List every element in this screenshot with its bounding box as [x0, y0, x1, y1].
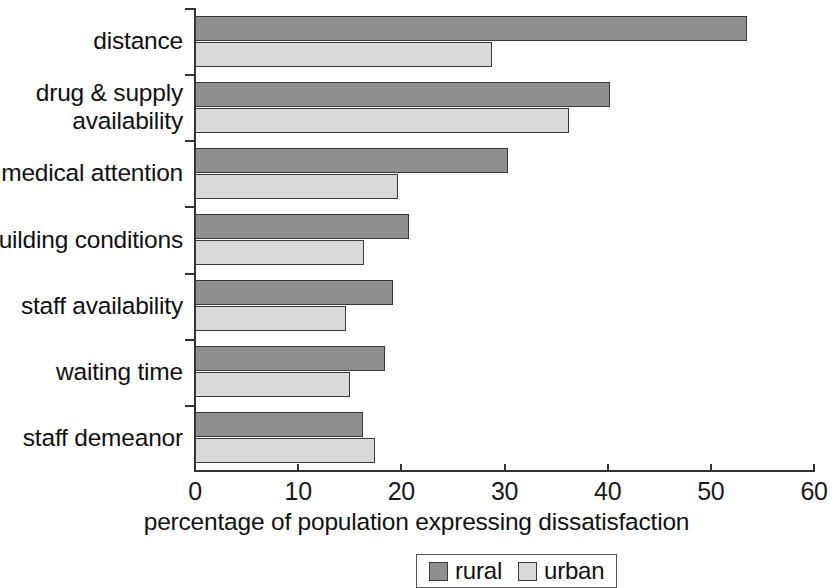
bar-urban-0: [195, 42, 492, 67]
x-axis-tick-label-0: 0: [165, 476, 225, 506]
category-label-3: building conditions: [0, 226, 183, 254]
x-axis-tick-0: [194, 464, 196, 472]
y-axis-tick-3: [185, 206, 195, 208]
y-axis-tick-4: [185, 273, 195, 275]
chart-legend: rural urban: [416, 554, 617, 588]
legend-item-rural[interactable]: rural: [429, 558, 502, 584]
y-axis-tick-6: [185, 405, 195, 407]
category-label-4: staff availability: [0, 292, 183, 320]
x-axis-tick-4: [607, 464, 609, 472]
y-axis-tick-0: [185, 8, 195, 10]
x-axis-tick-label-1: 10: [268, 476, 328, 506]
legend-label-rural: rural: [455, 558, 502, 584]
y-axis-tick-5: [185, 339, 195, 341]
legend-swatch-urban-icon: [518, 562, 537, 581]
x-axis-title: percentage of population expressing diss…: [0, 507, 833, 537]
category-label-1: drug & supply availability: [0, 79, 183, 135]
bar-rural-3: [195, 214, 409, 239]
x-axis-tick-3: [504, 464, 506, 472]
legend-label-urban: urban: [544, 558, 604, 584]
x-axis-tick-label-2: 20: [371, 476, 431, 506]
bar-rural-4: [195, 280, 393, 305]
category-label-0: distance: [0, 27, 183, 55]
plot-area: [195, 8, 814, 471]
legend-item-urban[interactable]: urban: [518, 558, 604, 584]
x-axis-tick-5: [710, 464, 712, 472]
y-axis-tick-2: [185, 140, 195, 142]
x-axis-tick-1: [297, 464, 299, 472]
x-axis-tick-6: [813, 464, 815, 472]
x-axis-tick-label-4: 40: [578, 476, 638, 506]
bar-rural-0: [195, 16, 747, 41]
legend-swatch-rural-icon: [429, 562, 448, 581]
bar-urban-4: [195, 306, 346, 331]
bar-urban-1: [195, 108, 569, 133]
y-axis-tick-1: [185, 74, 195, 76]
category-label-2: medical attention: [0, 159, 183, 187]
bar-urban-3: [195, 240, 364, 265]
x-axis-tick-label-5: 50: [681, 476, 741, 506]
bar-urban-2: [195, 174, 398, 199]
bar-rural-2: [195, 148, 508, 173]
category-label-6: staff demeanor: [0, 424, 183, 452]
category-label-5: waiting time: [0, 358, 183, 386]
bar-rural-6: [195, 412, 363, 437]
x-axis-tick-label-6: 60: [784, 476, 833, 506]
bar-rural-5: [195, 346, 385, 371]
x-axis-tick-label-3: 30: [475, 476, 535, 506]
bar-urban-5: [195, 372, 350, 397]
bar-rural-1: [195, 82, 610, 107]
bar-urban-6: [195, 438, 375, 463]
x-axis-tick-2: [400, 464, 402, 472]
